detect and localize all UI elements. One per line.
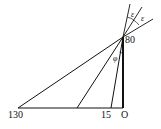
geometry-diagram (0, 0, 161, 129)
label-15: 15 (101, 110, 111, 120)
label-epsilon-1: ε (131, 11, 134, 19)
label-epsilon-2: ε (141, 15, 144, 23)
line-to-130 (18, 37, 123, 108)
label-apex-80: 80 (125, 35, 135, 45)
angle-arc-eps-2 (133, 20, 139, 26)
label-origin-O: O (121, 110, 128, 120)
label-130: 130 (8, 110, 23, 120)
line-to-15 (111, 37, 123, 108)
label-phi: φ (113, 55, 117, 63)
line-to-mid (77, 37, 123, 108)
